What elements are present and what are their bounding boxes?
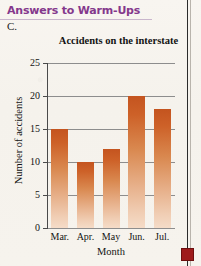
x-axis-title: Month — [47, 246, 175, 257]
chart-bar — [51, 129, 68, 228]
red-square-marker — [181, 248, 194, 261]
bar-chart: Accidents on the interstate 0510152025 M… — [0, 0, 201, 266]
x-axis-line — [47, 228, 175, 229]
y-axis-title: Number of accidents — [13, 66, 24, 216]
y-tick-label: 0 — [18, 222, 40, 233]
chart-bar — [77, 162, 94, 228]
chart-title: Accidents on the interstate — [46, 35, 191, 46]
chart-bar — [128, 96, 145, 228]
y-axis-tick — [43, 228, 48, 229]
column-divider-line-secondary — [190, 0, 191, 266]
chart-bar — [154, 109, 171, 228]
x-tick-label: Jul. — [147, 231, 177, 242]
plot-area — [47, 63, 175, 228]
chart-bar — [103, 149, 120, 228]
column-divider-line — [187, 0, 188, 266]
